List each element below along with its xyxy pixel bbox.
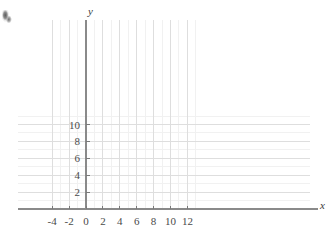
page-bottom-margin: [0, 244, 327, 250]
x-tick-label: 10: [165, 216, 176, 227]
x-tick-label: 6: [134, 216, 140, 227]
x-tick-label: 2: [100, 216, 106, 227]
x-tick-label: 4: [117, 216, 123, 227]
major-gridlines: [18, 20, 310, 209]
plot-canvas: [0, 0, 327, 250]
coordinate-grid-figure: -4-2024681012 246810 x y: [0, 0, 327, 250]
minor-gridlines: [18, 20, 310, 209]
x-axis-name-label: x: [320, 200, 325, 211]
x-tick-label: 0: [83, 216, 89, 227]
x-tick-label: -4: [48, 216, 57, 227]
y-tick-label: 2: [75, 187, 81, 198]
x-tick-label: 12: [182, 216, 193, 227]
y-tick-label: 10: [69, 119, 80, 130]
y-tick-label: 4: [75, 170, 81, 181]
y-tick-label: 6: [75, 153, 81, 164]
y-tick-label: 8: [75, 136, 81, 147]
x-tick-label: -2: [65, 216, 74, 227]
x-tick-label: 8: [151, 216, 157, 227]
y-axis-name-label: y: [88, 6, 93, 17]
